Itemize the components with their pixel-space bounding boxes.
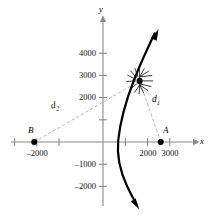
point-A-marker bbox=[158, 139, 164, 145]
distance-line-d1 bbox=[140, 81, 161, 142]
axis-group bbox=[11, 16, 200, 207]
figure-canvas bbox=[0, 0, 209, 217]
x-axis-arrowhead bbox=[193, 139, 200, 145]
distance-label-d1: d1 bbox=[152, 95, 160, 106]
y-tick-label-2000: 2000 bbox=[58, 93, 96, 102]
point-B-marker bbox=[31, 139, 37, 145]
distance-label-d1-sub: 1 bbox=[157, 99, 160, 106]
x-axis-label: x bbox=[200, 137, 204, 146]
point-A-label: A bbox=[163, 126, 169, 135]
distance-label-d2: d2 bbox=[50, 100, 60, 112]
y-tick-label--2000: –2000 bbox=[54, 182, 96, 191]
x-tick-label-3000: 3000 bbox=[155, 149, 185, 158]
y-axis-label: y bbox=[99, 5, 103, 14]
hyperbola-curve bbox=[118, 34, 155, 204]
hyperbola-figure: x y 4000 3000 2000 –1000 –2000 –2000 200… bbox=[0, 0, 209, 217]
y-tick-label--1000: –1000 bbox=[54, 160, 96, 169]
hyperbola-arrowhead-lower bbox=[131, 198, 140, 209]
y-axis-arrowhead bbox=[100, 16, 106, 23]
x-tick-label--2000: –2000 bbox=[17, 149, 57, 158]
explosion-center-dot bbox=[137, 78, 143, 84]
point-B-label: B bbox=[28, 126, 34, 135]
y-tick-label-4000: 4000 bbox=[58, 49, 96, 58]
y-tick-label-3000: 3000 bbox=[58, 71, 96, 80]
